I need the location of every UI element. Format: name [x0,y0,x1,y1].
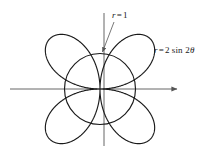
polar-figure: r=1 r=2sin 2θ [0,0,216,156]
label-rose-eq: = [158,45,165,55]
label-rose-theta: θ [190,45,195,55]
label-unit-circle-value: 1 [123,10,128,20]
label-rose-coefficient: 2 [165,45,170,55]
axes-group [10,13,177,146]
label-rose-equation: r=2sin 2θ [154,46,195,55]
polar-plot [0,0,216,156]
label-rose-function: sin [170,45,183,55]
label-unit-circle: r=1 [112,11,128,20]
label-unit-circle-eq: = [116,10,123,20]
